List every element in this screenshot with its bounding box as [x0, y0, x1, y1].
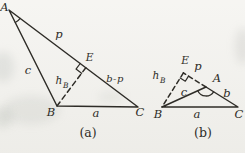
- altitude-hb-label: hB: [56, 74, 69, 90]
- triangle-abc-outline-a: [9, 10, 138, 107]
- side-ab-c-label-b: c: [181, 85, 188, 99]
- altitude-h-symbol-b: h: [153, 69, 160, 81]
- diagram-a: A B C E p c b-p a hB (a): [0, 0, 145, 140]
- vertex-a-label: A: [0, 0, 9, 14]
- vertex-c-label: C: [136, 105, 145, 119]
- vertex-b-label: B: [46, 105, 55, 119]
- angle-arc-at-a-b: [198, 91, 214, 96]
- vertex-b-label-b: B: [153, 107, 162, 121]
- side-ab-c-label: c: [25, 63, 32, 77]
- altitude-h-subscript-b: B: [159, 76, 166, 85]
- diagram-b: E p A hB c b B a C (b): [153, 54, 244, 140]
- segment-ae-p-label-b: p: [194, 59, 202, 73]
- angle-arc-at-a: [15, 18, 20, 22]
- altitude-h-symbol: h: [56, 74, 63, 86]
- segment-ec-bp-label: b-p: [106, 73, 124, 84]
- vertex-c-label-b: C: [235, 107, 244, 121]
- side-bc-a-label-b: a: [194, 107, 201, 121]
- segment-ae-p-label: p: [55, 27, 63, 41]
- side-ac-b-label-b: b: [223, 86, 230, 100]
- caption-a: (a): [79, 125, 96, 140]
- side-bc-a-label: a: [93, 106, 100, 120]
- caption-b: (b): [194, 125, 212, 140]
- right-angle-mark-a: [76, 64, 82, 74]
- geometry-figure-svg: A B C E p c b-p a hB (a) E p A hB c b B: [0, 0, 245, 153]
- foot-e-label: E: [85, 51, 94, 63]
- vertex-a-label-b: A: [212, 71, 221, 85]
- foot-e-label-b: E: [180, 54, 189, 66]
- paper-background: A B C E p c b-p a hB (a) E p A hB c b B: [0, 0, 245, 153]
- altitude-hb-label-b: hB: [153, 69, 166, 85]
- altitude-h-subscript: B: [62, 81, 69, 90]
